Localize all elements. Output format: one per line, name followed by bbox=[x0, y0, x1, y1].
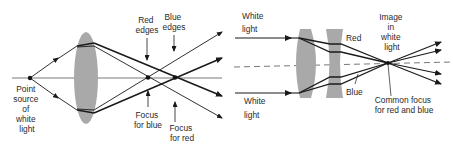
label-focus-red: Focus for red bbox=[169, 123, 194, 143]
red-focus-dot bbox=[173, 75, 178, 80]
optical-axis-dashed bbox=[234, 62, 453, 67]
left-panel-single-lens: Point source of white light Red edges Bl… bbox=[12, 12, 222, 143]
right-panel-achromatic-doublet: White light White light Red Blue Image i… bbox=[234, 11, 453, 120]
label-blue: Blue bbox=[346, 87, 363, 97]
blue-focus-dot bbox=[146, 75, 151, 80]
label-white-light-top: White light bbox=[242, 11, 266, 34]
label-red-edges: Red edges bbox=[136, 15, 159, 35]
label-red: Red bbox=[346, 33, 362, 43]
label-point-source: Point source of white light bbox=[13, 84, 40, 134]
label-white-light-bottom: White light bbox=[244, 96, 268, 120]
refracted-rays-doublet bbox=[299, 38, 441, 93]
label-common-focus: Common focus for red and blue bbox=[375, 95, 434, 115]
label-image-in-white-light: Image in white light bbox=[379, 12, 405, 52]
label-focus-blue: Focus for blue bbox=[134, 110, 162, 130]
refracted-rays bbox=[94, 32, 222, 118]
chromatic-aberration-diagram: Point source of white light Red edges Bl… bbox=[0, 0, 453, 149]
concave-lens-flint bbox=[326, 29, 343, 98]
label-blue-edges: Blue edges bbox=[163, 12, 186, 32]
